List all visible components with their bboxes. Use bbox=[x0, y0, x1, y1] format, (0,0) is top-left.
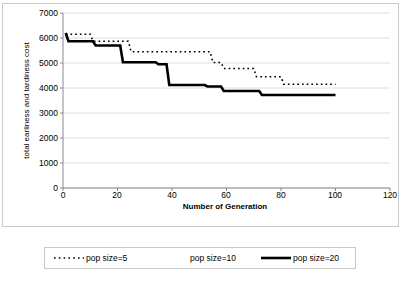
legend-swatch-blank bbox=[157, 253, 189, 263]
series-lines bbox=[66, 33, 336, 95]
gridlines bbox=[63, 13, 390, 188]
chart-figure: total earliness and tardiness cost 7000 … bbox=[0, 0, 403, 281]
legend-entry-pop-size-20[interactable]: pop size=20 bbox=[260, 248, 339, 268]
legend-label: pop size=5 bbox=[86, 253, 127, 263]
legend-swatch-solid bbox=[260, 253, 292, 263]
legend-swatch-dotted bbox=[53, 253, 85, 263]
axis-lines bbox=[60, 13, 390, 191]
legend-label: pop size=10 bbox=[190, 253, 236, 263]
chart-plot-area bbox=[0, 0, 403, 281]
legend-entry-pop-size-10[interactable]: pop size=10 bbox=[157, 248, 236, 268]
legend-entry-pop-size-5[interactable]: pop size=5 bbox=[53, 248, 127, 268]
legend-label: pop size=20 bbox=[293, 253, 339, 263]
chart-legend: pop size=5 pop size=10 pop size=20 bbox=[44, 247, 356, 269]
